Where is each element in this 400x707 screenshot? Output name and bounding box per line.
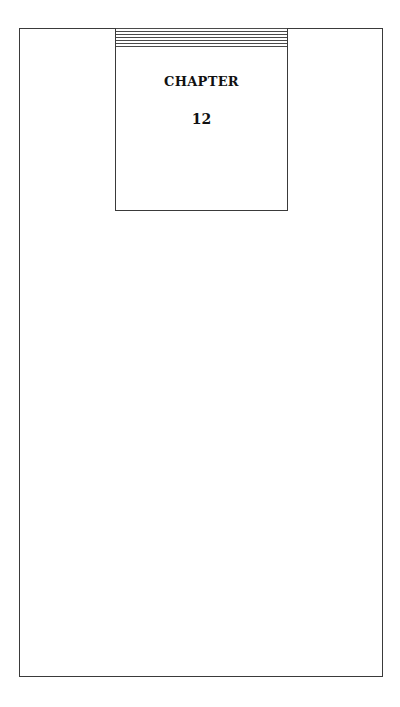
rule-line	[116, 40, 287, 41]
chapter-tab: CHAPTER 12	[115, 28, 288, 211]
rule-line	[116, 34, 287, 35]
tab-header-rules	[116, 28, 287, 47]
rule-line	[116, 46, 287, 47]
chapter-label: CHAPTER	[116, 74, 287, 89]
chapter-number: 12	[116, 111, 287, 127]
rule-line	[116, 28, 287, 29]
rule-line	[116, 43, 287, 44]
rule-line	[116, 37, 287, 38]
rule-line	[116, 31, 287, 32]
